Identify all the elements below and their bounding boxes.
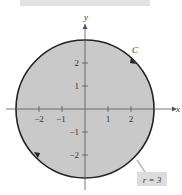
y-tick-label: 2 (75, 58, 80, 68)
radius-label: r = 3 (143, 175, 162, 185)
y-tick-label: −2 (69, 150, 79, 160)
curve-label: C (132, 45, 139, 55)
x-axis-label: x (175, 104, 180, 114)
y-tick-label: −1 (69, 127, 79, 137)
x-tick-label: 1 (106, 114, 111, 124)
x-tick-label: 2 (129, 114, 134, 124)
y-axis-arrow-icon (83, 24, 88, 29)
x-tick-label: −2 (34, 114, 44, 124)
y-tick-label: 1 (75, 81, 80, 91)
callout-leader (137, 160, 145, 172)
circle-diagram: −2 −1 1 2 2 1 −1 −2 x y C r = 3 (0, 0, 182, 195)
y-axis-label: y (83, 12, 88, 22)
x-tick-label: −1 (56, 114, 66, 124)
